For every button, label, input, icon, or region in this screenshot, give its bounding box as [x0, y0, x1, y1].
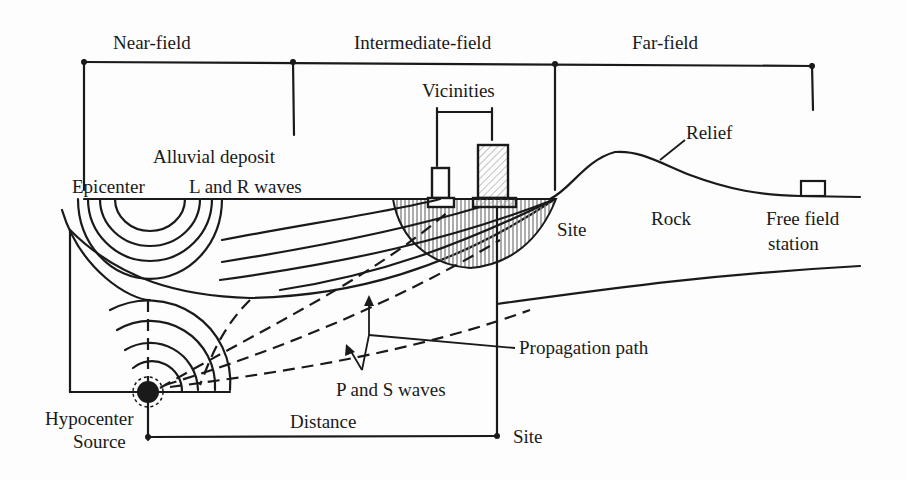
label-l-and-r-waves: L and R waves: [189, 176, 302, 197]
label-distance: Distance: [290, 411, 356, 432]
diagram-canvas: Near-field Intermediate-field Far-field …: [0, 0, 907, 480]
label-relief: Relief: [686, 122, 733, 143]
hypocenter-waves: [70, 230, 230, 400]
label-intermediate-field: Intermediate-field: [354, 32, 492, 53]
label-source: Source: [73, 431, 126, 452]
label-propagation-path: Propagation path: [519, 337, 649, 358]
relief-leader: [660, 140, 685, 160]
free-field-station-icon: [801, 181, 825, 196]
leader-lines: [345, 295, 515, 370]
label-site-bottom: Site: [513, 426, 543, 447]
label-epicenter: Epicenter: [72, 176, 145, 197]
label-vicinities: Vicinities: [422, 80, 495, 101]
label-rock: Rock: [651, 208, 692, 229]
tall-building-icon: [478, 145, 508, 198]
small-building-icon: [432, 168, 449, 198]
label-hypocenter: Hypocenter: [45, 408, 134, 429]
buildings: [428, 145, 825, 207]
label-p-and-s-waves: P and S waves: [336, 379, 446, 400]
label-near-field: Near-field: [113, 32, 191, 53]
seismic-wave-diagram: Near-field Intermediate-field Far-field …: [0, 0, 907, 480]
label-alluvial-deposit: Alluvial deposit: [153, 146, 276, 167]
label-far-field: Far-field: [632, 32, 699, 53]
rock-boundary: [497, 266, 860, 304]
epicenter-waves: [62, 199, 222, 300]
label-free-field: Free field: [766, 208, 840, 229]
label-station: station: [768, 233, 819, 254]
label-site: Site: [557, 219, 587, 240]
